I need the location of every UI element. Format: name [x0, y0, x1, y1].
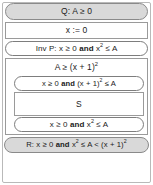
postcondition-label: R: x ≥ 0 and x2 ≤ A < (x + 1)2 — [26, 141, 127, 149]
inner-postcondition-label-keyword: and — [70, 120, 85, 129]
invariant-label-keyword: and — [79, 44, 94, 53]
inner-precondition-label-mid: (x + 1) — [75, 79, 100, 88]
initialization-node: x := 0 — [5, 22, 148, 39]
inner-precondition-label-tail: ≤ A — [103, 79, 116, 88]
postcondition-node: R: x ≥ 0 and x2 ≤ A < (x + 1)2 — [4, 137, 149, 153]
postcondition-label-superscript-2: 2 — [124, 139, 127, 145]
precondition-node: Q: A ≥ 0 — [5, 3, 148, 20]
inner-postcondition-node: x ≥ 0 and x2 ≤ A — [14, 117, 144, 132]
initialization-label: x := 0 — [66, 26, 88, 35]
body-statement-node: S — [14, 92, 144, 116]
loop-body-block: A ≥ (x + 1)2 x ≥ 0 and (x + 1)2 ≤ A S x … — [5, 58, 148, 135]
loop-guard-label-superscript: 2 — [95, 61, 98, 67]
loop-guard-node: A ≥ (x + 1)2 — [6, 59, 147, 76]
inner-postcondition-label-prefix: x ≥ 0 — [50, 120, 70, 129]
postcondition-label-keyword: and — [56, 140, 70, 149]
invariant-node: Inv P: x ≥ 0 and x2 ≤ A — [5, 41, 148, 56]
body-statement-label: S — [76, 100, 82, 109]
inner-precondition-label: x ≥ 0 and (x + 1)2 ≤ A — [42, 80, 116, 88]
precondition-label: Q: A ≥ 0 — [61, 7, 92, 16]
loop-guard-label: A ≥ (x + 1)2 — [55, 63, 98, 72]
proof-outline-diagram: Q: A ≥ 0 x := 0 Inv P: x ≥ 0 and x2 ≤ A … — [0, 0, 153, 185]
loop-guard-label-main: A ≥ (x + 1) — [55, 62, 95, 72]
loop-inner-column: x ≥ 0 and (x + 1)2 ≤ A S x ≥ 0 and x2 ≤ … — [14, 76, 144, 132]
invariant-label-tail: ≤ A — [103, 44, 117, 53]
invariant-label-prefix: Inv P: x ≥ 0 — [36, 44, 79, 53]
inner-postcondition-label: x ≥ 0 and x2 ≤ A — [50, 121, 108, 129]
inner-precondition-label-prefix: x ≥ 0 — [42, 79, 61, 88]
invariant-label: Inv P: x ≥ 0 and x2 ≤ A — [36, 45, 118, 53]
postcondition-label-prefix: R: x ≥ 0 — [26, 140, 55, 149]
postcondition-label-tail: ≤ A < (x + 1) — [79, 140, 124, 149]
inner-postcondition-label-tail: ≤ A — [94, 120, 108, 129]
inner-precondition-label-keyword: and — [61, 79, 75, 88]
inner-precondition-node: x ≥ 0 and (x + 1)2 ≤ A — [14, 76, 144, 91]
proof-outline-stack: Q: A ≥ 0 x := 0 Inv P: x ≥ 0 and x2 ≤ A … — [4, 3, 149, 153]
